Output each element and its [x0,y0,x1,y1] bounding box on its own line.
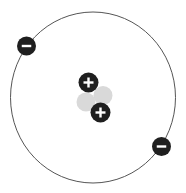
electron [17,37,36,56]
proton [79,73,99,93]
neutron [94,86,113,105]
proton [91,103,111,123]
atom-diagram [0,0,186,193]
electron [152,137,171,156]
